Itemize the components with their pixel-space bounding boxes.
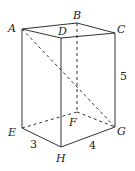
edge-DA: [22, 29, 61, 38]
dimension-CG: 5: [120, 70, 127, 83]
edge-AB: [22, 23, 77, 29]
edge-FG: [77, 112, 115, 127]
dimension-EH: 3: [30, 138, 37, 151]
label-F: F: [68, 116, 77, 129]
dimension-HG: 4: [89, 139, 96, 152]
diagonal-AG: [22, 29, 115, 127]
label-G: G: [117, 125, 126, 138]
edge-EH: [22, 128, 61, 147]
hidden-edges: [22, 23, 115, 128]
edge-BC: [77, 23, 115, 33]
label-D: D: [57, 25, 67, 38]
label-A: A: [7, 22, 16, 35]
cuboid-diagram: A B C D E F G H 3 4 5: [0, 0, 135, 171]
label-B: B: [72, 9, 81, 22]
label-E: E: [7, 126, 16, 139]
label-H: H: [55, 152, 66, 165]
label-C: C: [117, 23, 126, 36]
edge-HG: [61, 127, 115, 147]
edge-CD: [61, 33, 115, 38]
